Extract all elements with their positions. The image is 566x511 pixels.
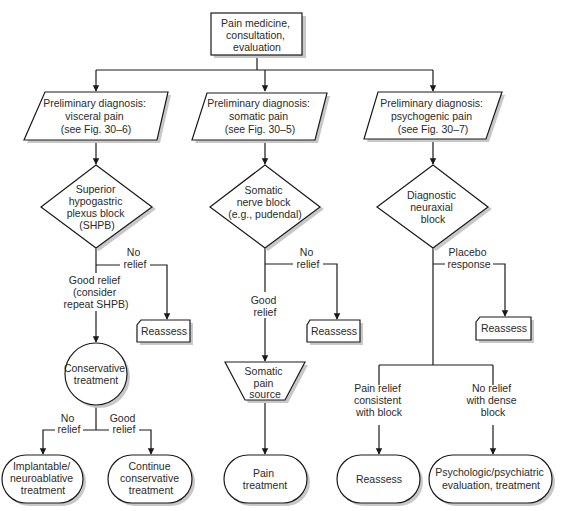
dx-somatic-line-2: somatic pain: [229, 110, 288, 122]
reassess-3-label: Reassess: [481, 322, 527, 334]
shpb-line-1: Superior: [76, 183, 116, 195]
node-implantable-treatment: Implantable/ neuroablative treatment: [2, 455, 86, 506]
node-continue-conservative: Continue conservative treatment: [108, 455, 195, 506]
node-start-line-3: evaluation: [233, 41, 281, 53]
node-neuraxial-decision: Diagnostic neuraxial block: [377, 165, 492, 251]
node-reassess-psychogenic: Reassess: [476, 317, 534, 343]
dx-psychogenic-line-3: (see Fig. 30–7): [398, 123, 469, 135]
node-reassess-terminal: Reassess: [337, 455, 423, 506]
dx-psychogenic-line-2: psychogenic pain: [391, 110, 472, 122]
psych-line-1: Psychologic/psychiatric: [435, 466, 544, 478]
neuraxial-line-1: Diagnostic: [407, 189, 456, 201]
shpb-line-3: plexus block: [67, 207, 126, 219]
conservative-line-2: treatment: [74, 374, 118, 386]
pain-management-flowchart: Pain medicine, consultation, evaluation …: [0, 0, 566, 511]
node-somatic-pain-source: Somatic pain source: [225, 362, 308, 403]
pain-treatment-line-2: treatment: [243, 479, 287, 491]
node-dx-visceral: Preliminary diagnosis: visceral pain (se…: [24, 92, 171, 143]
shpb-line-4: (SHPB): [79, 219, 115, 231]
node-pain-treatment: Pain treatment: [224, 455, 310, 506]
node-psych-evaluation: Psychologic/psychiatric evaluation, trea…: [429, 455, 555, 506]
label-somatic-good-relief: Good relief: [251, 294, 280, 318]
node-reassess-visceral: Reassess: [137, 320, 193, 345]
arrow-neuraxial-to-reassess: [433, 264, 505, 316]
somatic-source-line-3: source: [249, 388, 281, 400]
conservative-line-1: Conservative: [64, 362, 125, 374]
node-start-line-2: consultation,: [226, 29, 285, 41]
label-conservative-no-relief: No relief: [58, 412, 81, 435]
dx-somatic-line-1: Preliminary diagnosis:: [207, 97, 310, 109]
label-conservative-good-relief: Good relief: [110, 412, 139, 435]
dx-visceral-line-1: Preliminary diagnosis:: [43, 97, 146, 109]
node-dx-psychogenic: Preliminary diagnosis: psychogenic pain …: [364, 92, 505, 142]
implantable-line-1: Implantable/: [13, 460, 70, 472]
neuraxial-line-2: neuraxial: [410, 201, 453, 213]
dx-visceral-line-2: visceral pain: [65, 110, 124, 122]
svg-text:Psychologic/psychiatric: Psychologic/psychiatric evaluation, trea…: [435, 466, 546, 491]
reassess-4-label: Reassess: [356, 473, 402, 485]
label-neuraxial-consistent: Pain relief consistent with block: [354, 382, 404, 418]
reassess-1-label: Reassess: [141, 325, 187, 337]
node-start: Pain medicine, consultation, evaluation: [211, 13, 306, 58]
psych-line-2: evaluation, treatment: [442, 479, 540, 491]
implantable-line-2: neuroablative: [10, 472, 73, 484]
continue-line-1: Continue: [129, 460, 171, 472]
continue-line-3: treatment: [129, 484, 173, 496]
edge-labels: No relief Good relief (consider repeat S…: [55, 246, 521, 436]
label-shpb-good-relief: Good relief (consider repeat SHPB): [64, 274, 129, 310]
somatic-block-line-3: (e.g., pudendal): [228, 208, 302, 220]
dx-psychogenic-line-1: Preliminary diagnosis:: [380, 97, 483, 109]
implantable-line-3: treatment: [21, 484, 65, 496]
label-shpb-no-relief: No relief: [124, 246, 147, 270]
somatic-block-line-1: Somatic: [245, 184, 283, 196]
node-shpb-decision: Superior hypogastric plexus block (SHPB): [41, 165, 156, 251]
continue-line-2: conservative: [120, 472, 179, 484]
node-somatic-block-decision: Somatic nerve block (e.g., pudendal): [210, 165, 324, 251]
shpb-line-2: hypogastric: [69, 195, 123, 207]
pain-treatment-line-1: Pain: [253, 467, 274, 479]
label-neuraxial-placebo: Placebo response: [447, 246, 490, 270]
label-somatic-no-relief: No relief: [297, 246, 320, 270]
dx-visceral-line-3: (see Fig. 30–6): [61, 123, 132, 135]
node-conservative-treatment: Conservative treatment: [64, 343, 130, 408]
node-reassess-somatic: Reassess: [307, 320, 363, 345]
node-start-line-1: Pain medicine,: [221, 17, 290, 29]
dx-somatic-line-3: (see Fig. 30–5): [225, 123, 296, 135]
somatic-source-line-1: Somatic: [245, 365, 283, 377]
reassess-2-label: Reassess: [311, 325, 357, 337]
somatic-block-line-2: nerve block: [237, 196, 291, 208]
svg-text:Continue conservative: Continue conservative treatment: [120, 460, 182, 496]
node-dx-somatic: Preliminary diagnosis: somatic pain (see…: [192, 93, 330, 143]
neuraxial-line-3: block: [421, 213, 446, 225]
